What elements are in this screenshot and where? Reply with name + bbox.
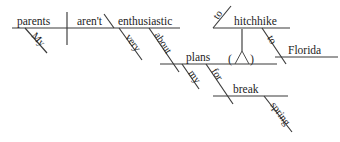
- word-parents: parents: [17, 15, 51, 28]
- word-plans: plans: [186, 51, 211, 64]
- implied-marker-right-stroke: [242, 51, 249, 64]
- word-my-plans: my: [186, 68, 203, 86]
- word-to-infinitive: to: [211, 8, 225, 21]
- word-hitchhike: hitchhike: [234, 15, 277, 27]
- word-about: about: [152, 30, 174, 56]
- implied-open-paren: (: [228, 52, 232, 66]
- word-enthusiastic: enthusiastic: [118, 15, 172, 27]
- word-my-subject: My: [29, 30, 47, 49]
- word-florida: Florida: [288, 44, 321, 56]
- predicate-adjective-divider: [104, 14, 114, 28]
- diagram-canvas: parents My aren't enthusiastic very abou…: [0, 0, 340, 142]
- sentence-diagram: parents My aren't enthusiastic very abou…: [0, 0, 340, 142]
- word-for: for: [209, 66, 225, 83]
- word-break: break: [233, 83, 259, 95]
- word-spring: spring: [268, 100, 293, 128]
- word-arent: aren't: [77, 15, 103, 27]
- word-very: very: [123, 32, 143, 54]
- implied-marker-left-stroke: [235, 51, 242, 64]
- implied-close-paren: ): [250, 52, 254, 66]
